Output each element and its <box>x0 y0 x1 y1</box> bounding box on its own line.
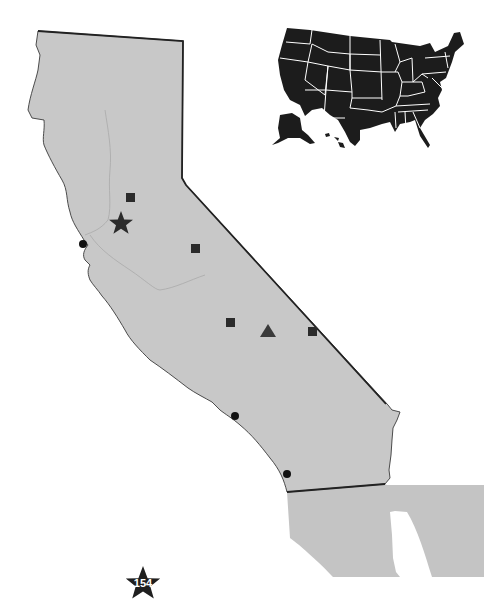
marker-circle[interactable] <box>79 240 87 248</box>
route-badge: 154 <box>126 566 160 599</box>
badge-number: 154 <box>134 577 153 589</box>
marker-square[interactable] <box>308 327 317 336</box>
us-mainland <box>278 28 464 148</box>
mexico-region <box>287 484 484 577</box>
us-inset-map <box>272 28 464 148</box>
california-map: 154 <box>0 0 499 616</box>
marker-square[interactable] <box>126 193 135 202</box>
hawaii <box>325 133 345 148</box>
marker-circle[interactable] <box>231 412 239 420</box>
marker-circle[interactable] <box>283 470 291 478</box>
marker-square[interactable] <box>191 244 200 253</box>
alaska <box>272 113 315 145</box>
marker-square[interactable] <box>226 318 235 327</box>
